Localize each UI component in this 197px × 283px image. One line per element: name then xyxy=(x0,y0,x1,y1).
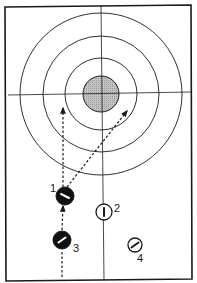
stone-label-2: 2 xyxy=(114,202,120,214)
curling-sheet-diagram: 1234 xyxy=(0,0,197,283)
stone-3-to-stone-1-arrow xyxy=(62,206,63,230)
stone-label-4: 4 xyxy=(137,252,143,264)
stone-4: 4 xyxy=(128,238,143,264)
stone-3: 3 xyxy=(53,231,79,254)
stones: 1234 xyxy=(50,182,143,264)
stone-2: 2 xyxy=(96,202,120,220)
sheet-border xyxy=(5,5,192,281)
stone-label-3: 3 xyxy=(73,242,79,254)
stone-label-1: 1 xyxy=(50,182,56,194)
stone-1: 1 xyxy=(50,182,74,205)
